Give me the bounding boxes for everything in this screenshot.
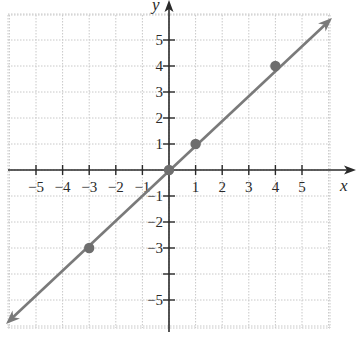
data-point	[84, 243, 94, 253]
data-point	[270, 61, 280, 71]
y-tick-label: −3	[147, 240, 163, 256]
y-tick-label: −5	[147, 292, 163, 308]
coordinate-plane-chart: −5−4−3−2−112345 −5−3−2−112345 x y	[0, 0, 359, 346]
x-tick-label: −5	[28, 179, 44, 195]
x-tick-label: 3	[245, 179, 253, 195]
x-tick-label: 1	[192, 179, 200, 195]
x-tick-label: 4	[272, 179, 280, 195]
y-tick-label: 5	[156, 32, 164, 48]
axes	[8, 0, 356, 332]
y-tick-label: 3	[156, 84, 164, 100]
x-tick-label: −2	[108, 179, 124, 195]
x-tick-label: 5	[298, 179, 306, 195]
y-tick-label: 2	[156, 110, 164, 126]
x-axis-label: x	[339, 176, 348, 195]
y-tick-label: 4	[156, 58, 164, 74]
x-tick-label: −4	[55, 179, 71, 195]
x-tick-label: 2	[218, 179, 226, 195]
y-tick-label: −2	[147, 214, 163, 230]
data-point	[190, 139, 200, 149]
data-point	[164, 165, 174, 175]
x-tick-label: −3	[81, 179, 97, 195]
y-axis-label: y	[150, 0, 160, 14]
y-tick-label: 1	[156, 136, 164, 152]
